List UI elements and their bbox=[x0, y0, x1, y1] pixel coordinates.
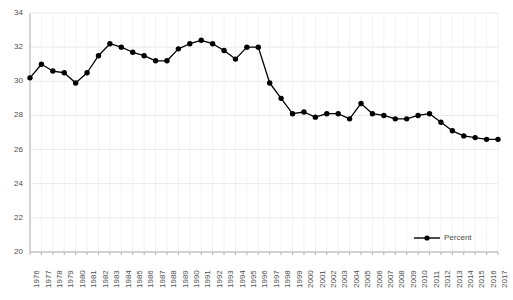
x-tick-label: 2000 bbox=[307, 270, 315, 288]
x-tick-label: 1992 bbox=[216, 270, 224, 288]
data-point bbox=[324, 111, 329, 116]
x-tick-label: 1989 bbox=[182, 270, 190, 288]
data-point bbox=[336, 111, 341, 116]
data-point bbox=[484, 137, 489, 142]
x-tick-label: 1980 bbox=[79, 270, 87, 288]
x-tick-label: 2006 bbox=[376, 270, 384, 288]
x-tick-label: 1976 bbox=[33, 270, 41, 288]
data-point bbox=[347, 116, 352, 121]
data-point bbox=[130, 50, 135, 55]
x-tick-label: 1990 bbox=[193, 270, 201, 288]
x-tick-label: 2016 bbox=[490, 270, 498, 288]
data-point bbox=[187, 41, 192, 46]
data-point bbox=[50, 68, 55, 73]
data-point bbox=[267, 80, 272, 85]
data-point bbox=[381, 113, 386, 118]
data-point bbox=[393, 116, 398, 121]
x-tick-label: 1996 bbox=[261, 270, 269, 288]
data-point bbox=[256, 44, 261, 49]
x-tick-label: 2005 bbox=[364, 270, 372, 288]
x-tick-label: 2010 bbox=[421, 270, 429, 288]
data-point bbox=[244, 44, 249, 49]
data-point bbox=[221, 48, 226, 53]
x-tick-label: 2011 bbox=[433, 271, 441, 288]
legend-label-percent: Percent bbox=[444, 234, 472, 242]
x-tick-label: 1988 bbox=[170, 270, 178, 288]
data-point bbox=[27, 75, 32, 80]
chart-legend: Percent bbox=[414, 233, 472, 243]
x-tick-label: 1993 bbox=[227, 270, 235, 288]
data-point bbox=[107, 41, 112, 46]
x-tick-label: 1987 bbox=[159, 270, 167, 288]
legend-marker-icon bbox=[414, 233, 440, 243]
x-tick-label: 2003 bbox=[341, 270, 349, 288]
data-point bbox=[199, 38, 204, 43]
data-point bbox=[96, 53, 101, 58]
x-tick-label: 2009 bbox=[410, 270, 418, 288]
data-point bbox=[290, 111, 295, 116]
x-tick-label: 1995 bbox=[250, 270, 258, 288]
x-tick-label: 1978 bbox=[56, 270, 64, 288]
x-tick-label: 1983 bbox=[113, 270, 121, 288]
x-tick-label: 1999 bbox=[296, 270, 304, 288]
data-point bbox=[358, 101, 363, 106]
x-grid-lines bbox=[30, 13, 498, 252]
y-tick-label: 26 bbox=[3, 146, 23, 154]
x-tick-label: 1977 bbox=[45, 270, 53, 288]
x-tick-label: 2001 bbox=[319, 270, 327, 288]
chart-plot-area bbox=[0, 0, 513, 300]
data-point bbox=[495, 137, 500, 142]
data-point bbox=[415, 113, 420, 118]
x-tick-label: 1979 bbox=[67, 270, 75, 288]
x-tick-label: 2004 bbox=[353, 270, 361, 288]
x-tick-label: 1986 bbox=[147, 270, 155, 288]
data-point bbox=[73, 80, 78, 85]
data-point bbox=[370, 111, 375, 116]
y-tick-label: 20 bbox=[3, 248, 23, 256]
data-point bbox=[84, 70, 89, 75]
x-tick-label: 2014 bbox=[467, 270, 475, 288]
x-tick-label: 1984 bbox=[125, 270, 133, 288]
data-point bbox=[233, 56, 238, 61]
x-tick-label: 1991 bbox=[204, 270, 212, 288]
data-point bbox=[153, 58, 158, 63]
y-tick-label: 30 bbox=[3, 77, 23, 85]
x-tick-label: 2015 bbox=[478, 270, 486, 288]
axis-lines bbox=[30, 13, 498, 252]
x-tick-label: 2007 bbox=[387, 270, 395, 288]
y-tick-label: 34 bbox=[3, 9, 23, 17]
x-tick-label: 1982 bbox=[102, 270, 110, 288]
x-tick-label: 2012 bbox=[444, 270, 452, 288]
data-point bbox=[427, 111, 432, 116]
data-point bbox=[461, 133, 466, 138]
data-point bbox=[210, 41, 215, 46]
data-point bbox=[472, 135, 477, 140]
line-chart: 3432302826242220 19761977197819791980198… bbox=[0, 0, 513, 300]
x-tick-label: 1997 bbox=[273, 270, 281, 288]
y-tick-label: 28 bbox=[3, 111, 23, 119]
x-tick-label: 1994 bbox=[239, 270, 247, 288]
data-point bbox=[119, 44, 124, 49]
y-tick-label: 24 bbox=[3, 180, 23, 188]
x-tick-label: 2008 bbox=[398, 270, 406, 288]
data-point bbox=[438, 120, 443, 125]
data-point bbox=[141, 53, 146, 58]
x-tick-label: 1998 bbox=[284, 270, 292, 288]
y-tick-label: 32 bbox=[3, 43, 23, 51]
data-point bbox=[62, 70, 67, 75]
x-tick-label: 2017 bbox=[501, 270, 509, 288]
data-point bbox=[278, 96, 283, 101]
x-tick-label: 2013 bbox=[456, 270, 464, 288]
data-point bbox=[176, 46, 181, 51]
grid-lines bbox=[30, 13, 498, 252]
x-tick-label: 1985 bbox=[136, 270, 144, 288]
data-point bbox=[164, 58, 169, 63]
data-point bbox=[301, 109, 306, 114]
x-tick-label: 2002 bbox=[330, 270, 338, 288]
data-point bbox=[313, 114, 318, 119]
data-point bbox=[39, 62, 44, 67]
data-point bbox=[450, 128, 455, 133]
data-point bbox=[404, 116, 409, 121]
y-tick-label: 22 bbox=[3, 214, 23, 222]
x-tick-label: 1981 bbox=[90, 270, 98, 288]
